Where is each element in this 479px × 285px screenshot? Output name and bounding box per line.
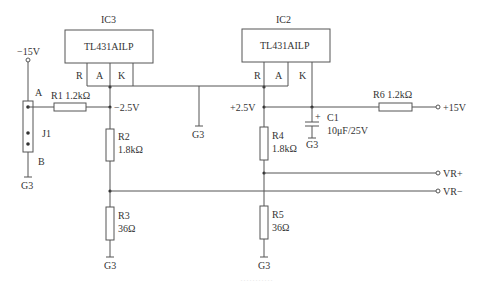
pos-supply-label: +15V xyxy=(443,102,467,113)
resistor-r3 xyxy=(106,207,114,240)
ic3-ref: IC3 xyxy=(101,14,116,25)
ic3: IC3 TL431AILP R A K xyxy=(65,14,153,86)
resistor-r6 xyxy=(379,103,412,111)
r3-value: 36Ω xyxy=(118,223,135,234)
neg-supply-terminal xyxy=(26,58,30,62)
ground-label-mid: G3 xyxy=(192,129,204,140)
r2-value: 1.8kΩ xyxy=(118,144,143,155)
circuit-schematic: IC3 TL431AILP R A K IC2 TL431AILP R A K … xyxy=(0,0,479,285)
ic3-pin-a: A xyxy=(96,70,104,81)
ic2-pin-a: A xyxy=(275,70,283,81)
r2-ref: R2 xyxy=(118,131,130,142)
ground-label-c1: G3 xyxy=(306,139,318,150)
ic2-ref: IC2 xyxy=(276,14,291,25)
neg-ref-label: −2.5V xyxy=(114,102,140,113)
ic2-part: TL431AILP xyxy=(260,40,310,51)
ic2-pin-r: R xyxy=(254,70,261,81)
ic3-part: TL431AILP xyxy=(84,41,134,52)
ground-label-r5: G3 xyxy=(258,260,270,271)
ic2: IC2 TL431AILP R A K xyxy=(242,14,330,107)
r6-label: R6 1.2kΩ xyxy=(373,89,412,100)
r4-value: 1.8kΩ xyxy=(272,143,297,154)
pos-supply-terminal xyxy=(436,105,440,109)
j1-ref: J1 xyxy=(42,128,51,139)
c1-polarity: + xyxy=(315,111,321,122)
vr-minus-terminal xyxy=(436,189,440,193)
c1-ref: C1 xyxy=(327,112,339,123)
r3-ref: R3 xyxy=(118,210,130,221)
resistor-r5 xyxy=(260,206,268,239)
pos-ref-label: +2.5V xyxy=(230,102,256,113)
vr-plus-label: VR+ xyxy=(443,168,463,179)
figure-caption: ··········· xyxy=(240,275,273,285)
ic3-pin-k: K xyxy=(118,70,126,81)
r5-value: 36Ω xyxy=(272,222,289,233)
c1-value: 10μF/25V xyxy=(327,125,369,136)
neg-supply-label: −15V xyxy=(17,46,41,57)
r4-ref: R4 xyxy=(272,130,284,141)
resistor-r4 xyxy=(260,127,268,160)
j1-pin-b: B xyxy=(38,156,45,167)
r5-ref: R5 xyxy=(272,209,284,220)
ground-label-j1: G3 xyxy=(21,180,33,191)
resistor-r2 xyxy=(106,129,114,161)
j1-pin-a: A xyxy=(35,87,43,98)
vr-plus-terminal xyxy=(436,171,440,175)
ic2-pin-k: K xyxy=(299,70,307,81)
ic3-pin-r: R xyxy=(76,70,83,81)
resistor-r1 xyxy=(54,103,86,111)
r1-label: R1 1.2kΩ xyxy=(51,90,90,101)
vr-minus-label: VR− xyxy=(443,186,463,197)
ground-label-r3: G3 xyxy=(104,260,116,271)
